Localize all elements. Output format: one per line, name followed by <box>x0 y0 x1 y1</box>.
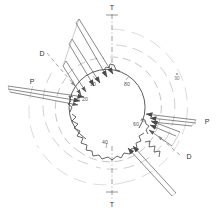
vector-right-p-1 <box>146 114 196 120</box>
vector-lr-2 <box>150 125 176 136</box>
right-pressure-vector-group <box>146 114 196 126</box>
vector-lr-envelope-b <box>172 193 176 196</box>
tick-20 <box>75 98 80 99</box>
figure-root: T T 10 80 20 60 40 <box>0 0 220 213</box>
vector-lr-5 <box>128 148 172 196</box>
arc-label-marker <box>176 73 178 75</box>
bore-smooth-arc <box>69 69 145 139</box>
upper-left-vector-fan <box>63 19 113 95</box>
tick-80 <box>126 76 129 80</box>
arc-label-90: 90 <box>174 76 180 81</box>
axis-label-top: T <box>110 4 115 11</box>
leader-left-d <box>47 53 75 86</box>
gear-force-diagram: T T 10 80 20 60 40 <box>0 0 220 213</box>
vector-ul-envelope <box>63 19 79 66</box>
left-pressure-vector-group <box>8 86 84 105</box>
mid-arc-left <box>43 72 88 164</box>
vector-label-right-p: P <box>205 118 210 125</box>
gear-step-lower-right <box>145 141 160 157</box>
lower-right-vector-fan <box>128 121 180 196</box>
mid-reference-arcs <box>43 45 175 169</box>
angle-tick-marks <box>75 76 145 148</box>
axis-label-bottom: T <box>110 201 115 208</box>
bore-outline-group <box>68 64 149 160</box>
angle-label-80: 80 <box>124 81 130 87</box>
angle-label-40: 40 <box>102 139 108 145</box>
outer-arc-lower-left <box>37 145 126 185</box>
vector-label-left-d: D <box>39 50 44 57</box>
vector-ul-1 <box>79 19 113 74</box>
angle-label-60: 60 <box>133 121 139 127</box>
vector-label-right-d: D <box>186 153 191 160</box>
outer-reference-arcs <box>29 29 188 185</box>
vector-ul-2 <box>76 23 107 77</box>
outer-arc-left <box>29 78 36 138</box>
angle-label-group: 10 80 20 60 40 <box>82 81 139 145</box>
vector-label-left-p: P <box>30 78 35 85</box>
left-d-leader <box>47 53 75 86</box>
inner-dash-arc-c <box>55 78 80 152</box>
vertical-axis <box>106 14 118 199</box>
vector-lr-envelope-a <box>172 132 180 146</box>
vector-lr-1 <box>151 121 180 132</box>
mid-arc-right <box>116 45 175 131</box>
